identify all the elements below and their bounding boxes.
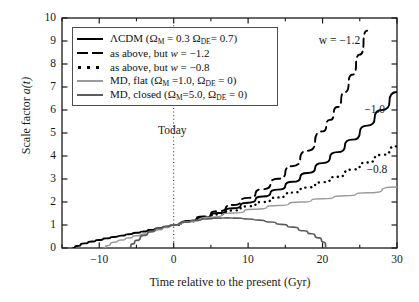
annotation-today: Today [158,124,187,136]
legend-entry-3: MD, flat (ΩM =1.0, ΩDE = 0) [77,74,272,88]
x-tick-label-20: 20 [303,253,343,265]
legend-label-3: MD, flat (ΩM =1.0, ΩDE = 0) [110,74,236,88]
y-tick-label-1: 1 [18,218,56,230]
annotation-w-minus-1-0: −1.0 [364,103,385,115]
y-axis-title: Scale factor a(t) [19,46,34,186]
curve-series-0 [73,92,397,248]
y-axis-title-text: Scale factor [19,94,33,154]
legend-line-sample-4 [77,89,103,101]
legend-line-sample-3 [77,75,103,87]
x-tick-label-30: 30 [377,253,417,265]
x-tick-label-0: 0 [154,253,194,265]
y-tick-label-10: 10 [18,11,56,23]
legend-line-sample-0 [77,33,103,45]
legend-entry-4: MD, closed (ΩM=5.0, ΩDE = 0) [77,88,272,102]
y-tick-label-2: 2 [18,195,56,207]
legend-entry-2: as above, but w = −0.8 [77,60,272,74]
x-tick-label--10: −10 [79,253,119,265]
legend-entry-0: ΛCDM (ΩM = 0.3 ΩDE= 0.7) [77,32,272,46]
legend-label-2: as above, but w = −0.8 [110,61,210,73]
legend-line-sample-2 [77,61,103,73]
y-tick-label-9: 9 [18,34,56,46]
legend-label-1: as above, but w = −1.2 [110,47,210,59]
annotation-w-minus-0-8: −0.8 [366,163,387,175]
y-tick-label-0: 0 [18,241,56,253]
legend-label-4: MD, closed (ΩM=5.0, ΩDE = 0) [110,88,247,102]
x-tick-label-10: 10 [228,253,268,265]
curve-series-3 [104,187,397,248]
legend-label-0: ΛCDM (ΩM = 0.3 ΩDE= 0.7) [110,32,237,46]
cosmology-scale-factor-figure: 012345678910 −100102030 Scale factor a(t… [0,0,419,302]
legend-entry-1: as above, but w = −1.2 [77,46,272,60]
legend-box: ΛCDM (ΩM = 0.3 ΩDE= 0.7)as above, but w … [72,27,278,106]
legend-line-sample-1 [77,47,103,59]
x-axis-title: Time relative to the present (Gyr) [62,275,398,290]
y-axis-title-italic: a(t) [19,77,33,94]
curve-series-4 [129,218,327,248]
annotation-w-minus-1-2: w = −1.2 [319,34,360,46]
